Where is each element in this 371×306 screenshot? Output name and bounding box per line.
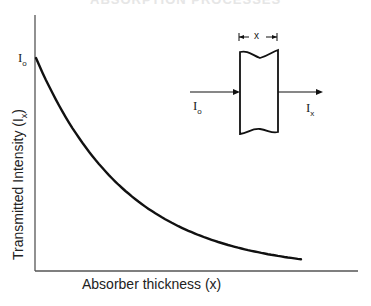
thickness-label: x — [254, 30, 259, 41]
transmitted-intensity-label: Ix — [306, 100, 314, 118]
incident-intensity-label: Io — [193, 98, 202, 116]
absorber-slab-diagram — [190, 33, 323, 134]
attenuation-figure — [0, 0, 371, 306]
y-axis-label: Transmitted Intensity (Ix) — [10, 109, 29, 260]
x-axis-label: Absorber thickness (x) — [82, 276, 221, 292]
y-tick-i0: Io — [18, 50, 27, 68]
absorber-slab — [240, 50, 278, 134]
